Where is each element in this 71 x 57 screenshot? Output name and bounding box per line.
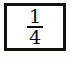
fraction-border-box: 1 4 [4,3,66,51]
fraction-denominator: 4 [29,29,41,46]
figure-canvas: 1 4 [0,0,71,57]
fraction: 1 4 [27,8,43,46]
fraction-numerator: 1 [29,8,41,25]
